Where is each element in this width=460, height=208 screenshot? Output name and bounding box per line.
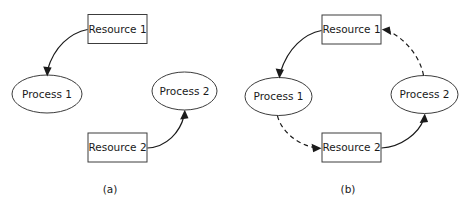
panel-caption: (a): [103, 183, 118, 195]
node-label: Resource 2: [322, 141, 380, 153]
arrowhead-icon: [420, 113, 429, 123]
edge-path-solid: [48, 30, 88, 71]
edge-b-process1-to-resource2: [278, 116, 322, 152]
node-label: Process 1: [254, 90, 304, 102]
arrowhead-icon: [180, 110, 188, 120]
edge-a-resource2-to-process2: [148, 110, 189, 148]
panel-caption: (b): [341, 183, 356, 195]
edge-path-solid: [382, 120, 424, 149]
arrowhead-icon: [312, 144, 322, 152]
node-a-resource-2[interactable]: Resource 2: [88, 133, 147, 162]
edge-b-resource1-to-process1: [276, 31, 322, 79]
node-label: Process 2: [400, 88, 450, 100]
edge-b-resource2-to-process2: [382, 113, 429, 148]
node-b-process-2[interactable]: Process 2: [391, 76, 458, 114]
node-b-resource-1[interactable]: Resource 1: [322, 15, 381, 44]
node-a-process-2[interactable]: Process 2: [152, 72, 217, 110]
node-label: Resource 2: [88, 141, 146, 153]
node-b-resource-2[interactable]: Resource 2: [322, 133, 381, 162]
node-label: Resource 1: [322, 23, 380, 35]
panel-a: Resource 1 Process 1 Process 2 Resource …: [12, 15, 217, 196]
node-label: Resource 1: [88, 23, 146, 35]
node-label: Process 2: [160, 85, 210, 97]
node-a-resource-1[interactable]: Resource 1: [88, 15, 147, 44]
resource-allocation-diagram: Resource 1 Process 1 Process 2 Resource …: [0, 0, 460, 208]
edge-path-solid: [281, 31, 322, 73]
edge-path-dashed: [278, 116, 315, 148]
edge-a-resource1-to-process1: [43, 30, 87, 77]
panel-b: Resource 1 Process 1 Process 2 Resource …: [245, 15, 458, 195]
edge-path-dashed: [389, 32, 424, 76]
edge-path-solid: [148, 116, 185, 148]
arrowhead-icon: [382, 27, 391, 36]
diagram-canvas: Resource 1 Process 1 Process 2 Resource …: [0, 0, 460, 208]
edge-b-process2-to-resource1: [382, 27, 424, 76]
node-label: Process 1: [22, 88, 72, 100]
arrowhead-icon: [276, 68, 284, 78]
node-b-process-1[interactable]: Process 1: [245, 78, 312, 116]
node-a-process-1[interactable]: Process 1: [12, 75, 82, 113]
